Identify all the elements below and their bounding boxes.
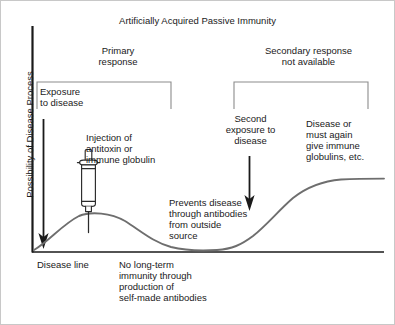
annotation-disease-or-reinject: Disease or must again give immune globul…: [306, 118, 364, 162]
immunity-diagram: Artificially Acquired Passive Immunity P…: [1, 1, 394, 324]
section-label-secondary-response: Secondary response not available: [246, 45, 371, 67]
annotation-no-long-term-immunity: No long-term immunity through production…: [119, 259, 207, 303]
down-arrow-icon-exposure: [38, 119, 48, 249]
baseline-label: Disease line: [37, 259, 89, 270]
annotation-exposure-to-disease: Exposure to disease: [40, 86, 83, 108]
annotation-second-exposure: Second exposure to disease: [213, 113, 288, 146]
annotation-prevents-disease: Prevents disease through antibodies from…: [169, 197, 247, 241]
section-label-primary-response: Primary response: [63, 45, 173, 67]
annotation-injection: Injection of antitoxin or immune globuli…: [86, 132, 155, 165]
y-axis-label: Possibility of Disease Process: [24, 45, 35, 225]
bracket-secondary-response: [234, 82, 368, 109]
chart-title: Artificially Acquired Passive Immunity: [1, 15, 394, 26]
